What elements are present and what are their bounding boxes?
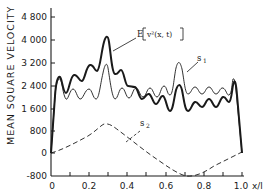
s2-curve bbox=[51, 124, 242, 176]
y-axis-title: MEAN SQUARE VELOCITY bbox=[5, 6, 16, 145]
y-tick-label: 3 200 bbox=[21, 58, 47, 68]
x-tick-label: 1.0 bbox=[234, 181, 249, 191]
x-tick-label: 0.6 bbox=[159, 181, 174, 191]
s1-curve bbox=[51, 62, 242, 153]
x-ticks bbox=[70, 172, 242, 176]
annotation-s2-label: s bbox=[140, 118, 144, 128]
y-tick-label: 4 000 bbox=[21, 35, 47, 45]
annotation-s2-sub: 2 bbox=[146, 122, 150, 129]
annotation-s1-sub: 1 bbox=[203, 57, 207, 64]
y-tick-labels: 4 800 4 000 3 200 2 400 1 600 800 0 -800 bbox=[21, 12, 47, 181]
annotation-e-v2: E v²(x, t) bbox=[113, 28, 183, 51]
annotation-e-body: v²(x, t) bbox=[146, 30, 172, 39]
x-tick-label: 0.8 bbox=[197, 181, 212, 191]
e-v2-curve bbox=[51, 37, 242, 153]
mean-square-velocity-chart: MEAN SQUARE VELOCITY 4 800 4 000 3 200 2… bbox=[0, 0, 272, 193]
y-tick-label: 1 600 bbox=[21, 104, 47, 114]
x-tick-labels: 0 0.2 0.4 0.6 0.8 1.0 bbox=[49, 181, 248, 191]
annotation-s1: s 1 bbox=[187, 53, 207, 72]
x-axis-title: x/l bbox=[252, 181, 263, 191]
x-tick-label: 0 bbox=[49, 181, 55, 191]
annotation-e-prefix: E bbox=[137, 29, 143, 39]
y-tick-label: 800 bbox=[30, 126, 47, 136]
x-tick-label: 0.2 bbox=[82, 181, 96, 191]
y-tick-label: 2 400 bbox=[21, 81, 47, 91]
close-bracket bbox=[180, 28, 183, 40]
annotation-s1-label: s bbox=[197, 53, 201, 63]
x-tick-label: 0.4 bbox=[120, 181, 135, 191]
open-bracket bbox=[143, 28, 146, 40]
y-tick-label: 4 800 bbox=[21, 12, 47, 22]
y-tick-label: -800 bbox=[27, 171, 48, 181]
y-tick-label: 0 bbox=[41, 148, 47, 158]
